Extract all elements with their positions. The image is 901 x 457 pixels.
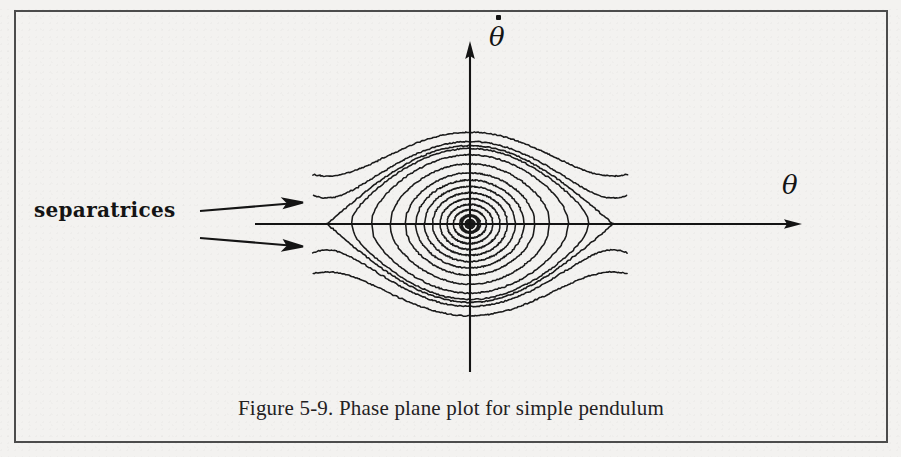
separatrices-label: separatrices	[34, 198, 176, 222]
figure-frame	[14, 10, 888, 443]
figure-caption: Figure 5-9. Phase plane plot for simple …	[14, 396, 888, 421]
x-axis-label: θ	[782, 170, 798, 200]
y-axis-label: θ	[489, 22, 505, 52]
y-axis-label-text: θ	[489, 22, 505, 52]
theta-dot-accent-icon	[496, 15, 501, 20]
page-background: separatrices θ θ Figure 5-9. Phase plane…	[0, 0, 901, 457]
page-top-crop	[0, 0, 901, 9]
